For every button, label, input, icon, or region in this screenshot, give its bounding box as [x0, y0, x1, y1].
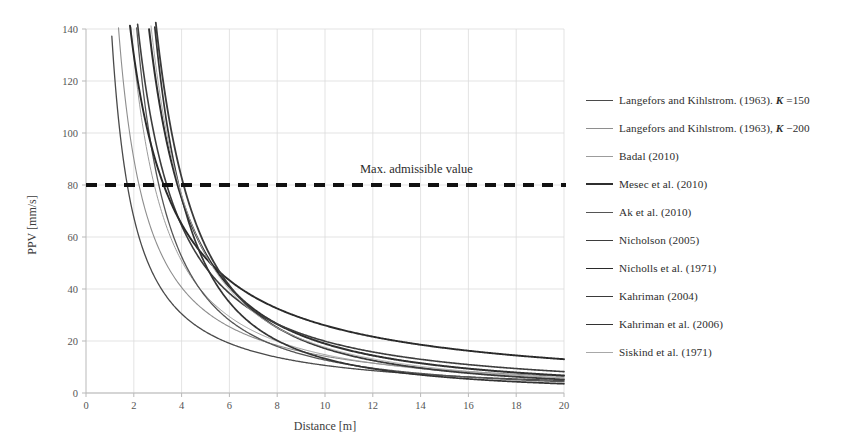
x-tick-label: 20 — [559, 400, 570, 411]
max-admissible-label: Max. admissible value — [360, 162, 473, 176]
x-tick-label: 8 — [275, 400, 280, 411]
y-tick-labels: 020406080100120140 — [62, 24, 78, 399]
y-tick-label: 0 — [73, 388, 78, 399]
x-tick-label: 4 — [179, 400, 185, 411]
legend-item-label: Langefors and Kihlstrom. (1963). K =150 — [619, 94, 810, 106]
legend-line-swatch — [586, 268, 613, 269]
legend-line-swatch — [586, 156, 613, 157]
legend-item-label: Mesec et al. (2010) — [619, 178, 707, 190]
legend-item[interactable]: Kahriman (2004) — [586, 282, 863, 310]
legend-line-swatch — [586, 100, 613, 101]
legend-item[interactable]: Langefors and Kihlstrom. (1963). K =150 — [586, 86, 863, 114]
x-tick-label: 6 — [227, 400, 232, 411]
y-tick-label: 140 — [62, 24, 78, 35]
legend-item[interactable]: Nicholson (2005) — [586, 226, 863, 254]
y-tick-label: 100 — [62, 128, 78, 139]
chart-figure: 020406080100120140 02468101214161820 PPV… — [0, 0, 863, 444]
legend-item[interactable]: Langefors and Kihlstrom. (1963), K −200 — [586, 114, 863, 142]
x-tick-label: 10 — [320, 400, 331, 411]
legend-line-swatch — [586, 183, 613, 185]
x-tick-label: 0 — [83, 400, 88, 411]
chart-legend: Langefors and Kihlstrom. (1963). K =150L… — [586, 86, 863, 366]
legend-item-label: Kahriman et al. (2006) — [619, 318, 723, 330]
legend-item-label: Nicholson (2005) — [619, 234, 699, 246]
x-tick-label: 2 — [131, 400, 136, 411]
x-tick-label: 12 — [368, 400, 379, 411]
legend-line-swatch — [586, 212, 613, 213]
x-axis-title: Distance [m] — [294, 419, 356, 433]
x-tick-labels: 02468101214161820 — [83, 400, 569, 411]
y-tick-label: 80 — [68, 180, 79, 191]
x-tick-label: 16 — [463, 400, 474, 411]
y-tick-label: 20 — [68, 336, 79, 347]
legend-item[interactable]: Kahriman et al. (2006) — [586, 310, 863, 338]
x-tick-label: 14 — [415, 400, 426, 411]
y-axis-title: PPV [mm/s] — [25, 195, 39, 254]
legend-item-label: Ak et al. (2010) — [619, 206, 691, 218]
legend-line-swatch — [586, 128, 613, 129]
legend-line-swatch — [586, 324, 613, 325]
legend-item-label: Badal (2010) — [619, 150, 679, 162]
legend-line-swatch — [586, 296, 613, 297]
x-tick-label: 18 — [511, 400, 522, 411]
y-tick-label: 60 — [68, 232, 79, 243]
legend-item[interactable]: Badal (2010) — [586, 142, 863, 170]
y-tick-label: 120 — [62, 76, 78, 87]
legend-item-label: Siskind et al. (1971) — [619, 346, 712, 358]
legend-item[interactable]: Nicholls et al. (1971) — [586, 254, 863, 282]
legend-item-label: Langefors and Kihlstrom. (1963), K −200 — [619, 122, 810, 134]
legend-item[interactable]: Mesec et al. (2010) — [586, 170, 863, 198]
legend-item[interactable]: Siskind et al. (1971) — [586, 338, 863, 366]
legend-item-label: Nicholls et al. (1971) — [619, 262, 716, 274]
y-tick-label: 40 — [68, 284, 79, 295]
legend-item-label: Kahriman (2004) — [619, 290, 698, 302]
legend-line-swatch — [586, 352, 613, 353]
legend-line-swatch — [586, 240, 613, 241]
legend-item[interactable]: Ak et al. (2010) — [586, 198, 863, 226]
